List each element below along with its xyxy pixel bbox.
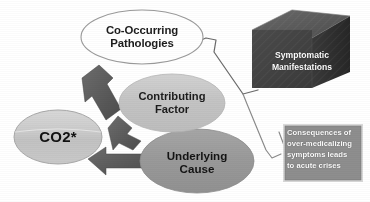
contributing-factor-ellipse bbox=[119, 74, 225, 132]
arrow-pathologies-to-co2 bbox=[82, 65, 121, 120]
diagram-canvas: Co-Occurring Pathologies Contributing Fa… bbox=[0, 0, 370, 202]
co-occurring-pathologies-ellipse bbox=[81, 10, 203, 64]
co2-ellipse bbox=[14, 110, 102, 164]
diagram-vector-layer bbox=[0, 0, 370, 202]
underlying-cause-ellipse bbox=[140, 129, 254, 193]
symptomatic-manifestations-cube bbox=[252, 10, 350, 88]
consequences-box bbox=[283, 124, 363, 182]
